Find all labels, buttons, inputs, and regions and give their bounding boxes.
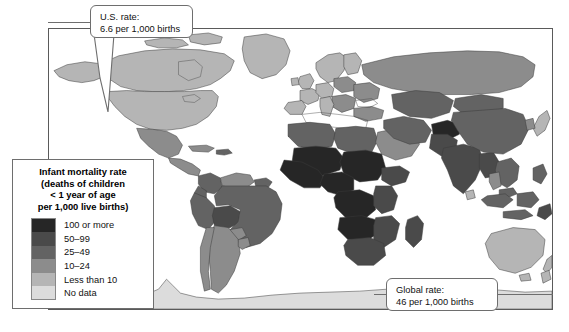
legend-entry: 25–49 <box>31 246 149 260</box>
legend-entry: 10–24 <box>31 259 149 273</box>
region-papua-new-guinea <box>537 204 552 220</box>
region-cuba <box>188 145 214 152</box>
region-finland <box>344 53 362 75</box>
region-india <box>441 144 483 194</box>
legend-title-line-2: (deaths of children <box>17 178 149 190</box>
legend-title-line-3: < 1 year of age <box>17 189 149 201</box>
global-rate-callout: Global rate: 46 per 1,000 births <box>386 278 498 311</box>
legend-swatch-25-49 <box>31 246 56 260</box>
legend-entry: 100 or more <box>31 218 149 232</box>
legend-label-10-24: 10–24 <box>64 261 90 271</box>
legend-swatch-10-24 <box>31 259 56 273</box>
global-callout-leader-line <box>497 294 553 295</box>
region-russia <box>362 51 535 95</box>
legend-swatch-less-than-10 <box>31 273 56 287</box>
region-new-zealand-south <box>541 270 551 283</box>
region-peru <box>190 193 216 230</box>
region-canada <box>101 49 234 92</box>
region-canada-arctic-b <box>188 33 222 45</box>
region-morocco-algeria <box>288 122 336 150</box>
region-thailand <box>489 172 501 190</box>
region-madagascar <box>406 216 424 248</box>
region-indonesia-java <box>503 210 533 220</box>
region-angola-zambia <box>338 216 378 242</box>
region-poland-baltics <box>334 77 356 93</box>
region-balkans <box>332 95 356 113</box>
region-british-isles <box>298 74 314 89</box>
region-philippines <box>533 164 547 184</box>
legend-entries: 100 or more 50–99 25–49 10–24 Less than … <box>17 218 149 300</box>
legend-swatch-50-99 <box>31 232 56 246</box>
region-ethiopia-horn <box>382 166 410 186</box>
region-indonesia-sumatra <box>481 194 513 208</box>
region-tasmania <box>519 273 531 281</box>
region-ukraine <box>354 83 380 103</box>
region-ireland <box>291 78 299 86</box>
region-uruguay <box>238 238 250 250</box>
region-korea <box>525 118 535 130</box>
legend-title: Infant mortality rate (deaths of childre… <box>17 166 149 212</box>
region-turkey <box>354 106 384 121</box>
legend-entry: Less than 10 <box>31 273 149 287</box>
legend-label-25-49: 25–49 <box>64 247 90 257</box>
us-rate-line2: 6.6 per 1,000 births <box>100 23 184 35</box>
region-south-africa <box>344 238 386 266</box>
region-libya-egypt <box>334 126 378 154</box>
legend-swatch-100-or-more <box>31 218 56 232</box>
legend-title-line-1: Infant mortality rate <box>17 166 149 178</box>
legend-label-less-than-10: Less than 10 <box>64 275 117 285</box>
legend-label-50-99: 50–99 <box>64 234 90 244</box>
region-central-america <box>169 158 201 176</box>
infographic-figure: .c100 { fill:#262626; } .c50 { fill:#4a4… <box>0 0 569 332</box>
region-japan <box>533 110 550 136</box>
legend-label-no-data: No data <box>64 288 97 298</box>
legend-title-line-4: per 1,000 live births) <box>17 201 149 213</box>
legend-entry: No data <box>31 286 149 300</box>
region-east-africa <box>374 186 398 214</box>
region-united-states <box>109 91 219 131</box>
region-canada-arctic-a <box>145 38 189 48</box>
region-greenland <box>242 34 290 79</box>
region-mexico <box>137 128 183 158</box>
region-australia <box>485 228 545 274</box>
region-hispaniola <box>216 149 232 155</box>
legend-entry: 50–99 <box>31 232 149 246</box>
region-alaska <box>54 62 107 83</box>
global-rate-line2: 46 per 1,000 births <box>396 296 489 308</box>
region-iberia <box>284 100 306 114</box>
region-drc <box>334 190 376 220</box>
region-borneo <box>517 192 539 208</box>
region-sri-lanka <box>465 190 475 200</box>
map-legend: Infant mortality rate (deaths of childre… <box>12 159 154 309</box>
us-rate-callout: U.S. rate: 6.6 per 1,000 births <box>90 5 193 38</box>
global-rate-line1: Global rate: <box>396 284 489 296</box>
us-rate-line1: U.S. rate: <box>100 11 184 23</box>
us-callout-leader-line <box>48 22 91 23</box>
legend-swatch-no-data <box>31 286 56 300</box>
legend-label-100-or-more: 100 or more <box>64 220 114 230</box>
